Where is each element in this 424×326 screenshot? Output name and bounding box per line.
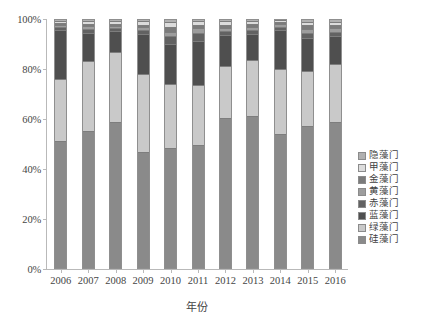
bar-segment	[193, 146, 204, 268]
bar-segment	[220, 36, 231, 67]
bar-segment	[110, 32, 121, 53]
x-axis-tick	[280, 269, 281, 273]
legend-label: 隐藻门	[369, 150, 399, 161]
bar-segment	[165, 85, 176, 149]
bar-2016[interactable]	[329, 19, 342, 269]
x-axis-tick	[225, 269, 226, 273]
bar-segment	[247, 61, 258, 117]
bar-segment	[330, 123, 341, 268]
x-axis-tick	[308, 269, 309, 273]
bar-segment	[193, 86, 204, 147]
legend-swatch-icon	[358, 188, 366, 196]
bar-segment	[247, 35, 258, 61]
bars-layer	[47, 19, 348, 269]
y-axis-tick	[43, 169, 47, 170]
legend-label: 蓝藻门	[369, 210, 399, 221]
bar-segment	[275, 70, 286, 136]
x-axis-label-2013: 2013	[242, 275, 263, 286]
bar-2006[interactable]	[54, 19, 67, 269]
bar-segment	[138, 35, 149, 75]
bar-segment	[220, 119, 231, 268]
x-axis-label-2010: 2010	[160, 275, 181, 286]
legend-item-7[interactable]: 硅藻门	[358, 234, 399, 245]
bar-segment	[83, 62, 94, 131]
legend-swatch-icon	[358, 176, 366, 184]
bar-segment	[110, 123, 121, 268]
bar-2011[interactable]	[192, 19, 205, 269]
bar-2014[interactable]	[274, 19, 287, 269]
bar-segment	[165, 149, 176, 268]
legend-item-5[interactable]: 蓝藻门	[358, 210, 399, 221]
legend-label: 硅藻门	[369, 234, 399, 245]
legend-item-2[interactable]: 金藻门	[358, 174, 399, 185]
x-axis-tick	[143, 269, 144, 273]
legend-item-1[interactable]: 甲藻门	[358, 162, 399, 173]
x-axis-tick	[198, 269, 199, 273]
y-axis-tick	[43, 19, 47, 20]
x-axis-tick	[61, 269, 62, 273]
legend-swatch-icon	[358, 212, 366, 220]
legend-item-4[interactable]: 赤藻门	[358, 198, 399, 209]
bar-2015[interactable]	[301, 19, 314, 269]
bar-segment	[275, 31, 286, 69]
legend-label: 黄藻门	[369, 186, 399, 197]
bar-segment	[275, 135, 286, 268]
bar-2007[interactable]	[82, 19, 95, 269]
y-axis-label: 80%	[22, 64, 41, 75]
chart-legend: 隐藻门甲藻门金藻门黄藻门赤藻门蓝藻门绿藻门硅藻门	[358, 150, 399, 245]
bar-2009[interactable]	[137, 19, 150, 269]
bar-segment	[165, 45, 176, 85]
bar-segment	[302, 39, 313, 72]
x-axis-tick	[171, 269, 172, 273]
legend-swatch-icon	[358, 164, 366, 172]
y-axis-label: 40%	[22, 164, 41, 175]
legend-item-0[interactable]: 隐藻门	[358, 150, 399, 161]
bar-segment	[83, 132, 94, 268]
x-axis-title: 年份	[46, 298, 348, 314]
x-axis-label-2009: 2009	[133, 275, 154, 286]
plot-area: 0%20%40%60%80%100%2006200720082009201020…	[46, 19, 348, 270]
x-axis-label-2007: 2007	[78, 275, 99, 286]
bar-2008[interactable]	[109, 19, 122, 269]
legend-swatch-icon	[358, 236, 366, 244]
bar-segment	[193, 34, 204, 42]
x-axis-label-2016: 2016	[325, 275, 346, 286]
bar-segment	[55, 31, 66, 79]
x-axis-label-2008: 2008	[105, 275, 126, 286]
x-axis-label-2015: 2015	[297, 275, 318, 286]
y-axis-label: 20%	[22, 214, 41, 225]
x-axis-label-2006: 2006	[50, 275, 71, 286]
y-axis-label: 100%	[17, 14, 41, 25]
y-axis-label: 60%	[22, 114, 41, 125]
y-axis-tick	[43, 219, 47, 220]
bar-segment	[55, 80, 66, 142]
bar-segment	[330, 65, 341, 123]
bar-segment	[55, 142, 66, 268]
bar-segment	[110, 53, 121, 122]
legend-item-6[interactable]: 绿藻门	[358, 222, 399, 233]
bar-segment	[83, 34, 94, 63]
bar-segment	[247, 117, 258, 268]
legend-label: 甲藻门	[369, 162, 399, 173]
legend-label: 绿藻门	[369, 222, 399, 233]
y-axis-label: 0%	[27, 264, 41, 275]
bar-segment	[138, 75, 149, 153]
bar-segment	[193, 42, 204, 85]
bar-segment	[138, 153, 149, 268]
x-axis-tick	[335, 269, 336, 273]
y-axis-tick	[43, 269, 47, 270]
legend-item-3[interactable]: 黄藻门	[358, 186, 399, 197]
bar-2013[interactable]	[246, 19, 259, 269]
legend-label: 金藻门	[369, 174, 399, 185]
legend-swatch-icon	[358, 200, 366, 208]
bar-2010[interactable]	[164, 19, 177, 269]
bar-segment	[220, 67, 231, 119]
x-axis-tick	[88, 269, 89, 273]
x-axis-tick	[253, 269, 254, 273]
y-axis-tick	[43, 119, 47, 120]
bar-2012[interactable]	[219, 19, 232, 269]
x-axis-tick	[116, 269, 117, 273]
legend-swatch-icon	[358, 152, 366, 160]
bar-segment	[330, 37, 341, 64]
legend-label: 赤藻门	[369, 198, 399, 209]
